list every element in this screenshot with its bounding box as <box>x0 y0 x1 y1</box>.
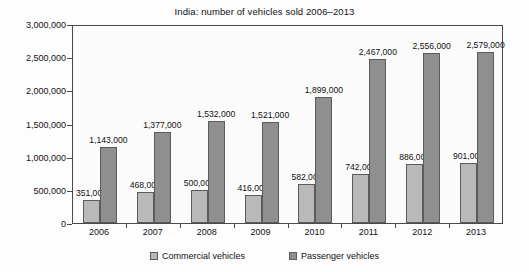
bar-passenger-2007[interactable] <box>154 132 171 223</box>
x-axis-labels: 20062007200820092010201120122013 <box>72 227 503 241</box>
bar-value-label: 2,579,000 <box>466 40 504 50</box>
y-axis-tick-label: 3,000,000 <box>0 20 66 30</box>
x-axis-tick-label: 2010 <box>288 227 342 238</box>
bar-chart: India: number of vehicles sold 2006–2013… <box>0 0 529 272</box>
bar-passenger-2010[interactable] <box>315 97 332 223</box>
x-axis-tick-label: 2011 <box>341 227 395 238</box>
bar-commercial-2011[interactable] <box>352 174 369 223</box>
bar-passenger-2013[interactable] <box>477 52 494 223</box>
bar-passenger-2006[interactable] <box>100 147 117 223</box>
bar-commercial-2013[interactable] <box>460 163 477 223</box>
bar-value-label: 1,521,000 <box>251 110 289 120</box>
y-axis-tick-label: 2,000,000 <box>0 86 66 96</box>
chart-title: India: number of vehicles sold 2006–2013 <box>0 6 529 18</box>
legend-item-commercial[interactable]: Commercial vehicles <box>150 251 245 261</box>
plot-area: 351,0001,143,000468,0001,377,000500,0001… <box>72 25 503 224</box>
bar-commercial-2009[interactable] <box>245 195 262 223</box>
chart-legend: Commercial vehiclesPassenger vehicles <box>0 248 529 264</box>
y-axis-tick-label: 1,500,000 <box>0 120 66 130</box>
bar-commercial-2007[interactable] <box>137 192 154 223</box>
bar-value-label: 1,143,000 <box>89 135 127 145</box>
y-axis-tick-label: 2,500,000 <box>0 53 66 63</box>
legend-item-passenger[interactable]: Passenger vehicles <box>289 251 379 261</box>
y-axis-tick-label: 500,000 <box>0 186 66 196</box>
x-axis-tick-label: 2009 <box>234 227 288 238</box>
bar-commercial-2012[interactable] <box>406 164 423 223</box>
x-axis-tick-label: 2008 <box>180 227 234 238</box>
x-axis-tick-label: 2007 <box>126 227 180 238</box>
bar-value-label: 2,467,000 <box>359 47 397 57</box>
y-axis-tick-label: 0 <box>0 219 66 229</box>
x-axis-tick-label: 2006 <box>72 227 126 238</box>
bar-value-label: 1,899,000 <box>305 85 343 95</box>
bar-passenger-2009[interactable] <box>262 122 279 223</box>
legend-label: Commercial vehicles <box>162 251 245 261</box>
legend-label: Passenger vehicles <box>301 251 379 261</box>
bar-value-label: 2,556,000 <box>413 41 451 51</box>
bar-commercial-2006[interactable] <box>83 200 100 223</box>
x-axis-tick-label: 2013 <box>449 227 503 238</box>
bar-commercial-2010[interactable] <box>298 184 315 223</box>
y-axis-tick-label: 1,000,000 <box>0 153 66 163</box>
x-axis-tick-label: 2012 <box>395 227 449 238</box>
bar-passenger-2008[interactable] <box>208 121 225 223</box>
legend-swatch-icon <box>289 252 297 260</box>
bar-passenger-2012[interactable] <box>423 53 440 223</box>
bar-passenger-2011[interactable] <box>369 59 386 223</box>
bar-value-label: 1,377,000 <box>143 120 181 130</box>
legend-swatch-icon <box>150 252 158 260</box>
y-axis-labels: 0500,0001,000,0001,500,0002,000,0002,500… <box>0 25 66 224</box>
bar-commercial-2008[interactable] <box>191 190 208 223</box>
bar-value-label: 1,532,000 <box>197 109 235 119</box>
